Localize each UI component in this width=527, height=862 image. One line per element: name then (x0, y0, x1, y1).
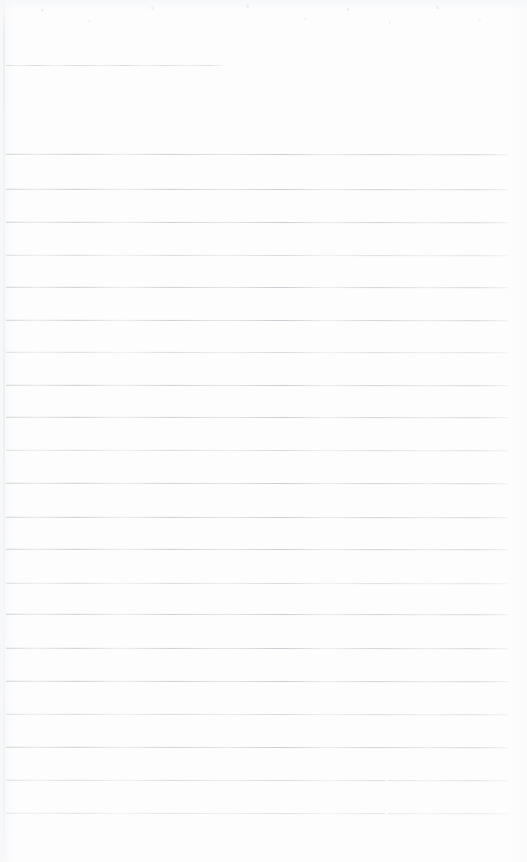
header-rule (6, 65, 223, 66)
scanned-page (0, 0, 527, 862)
rule-ink (6, 417, 508, 418)
rule-scan-step-artifact (385, 812, 388, 814)
rule-ink (6, 780, 508, 781)
rule-ink (6, 154, 508, 155)
rule-ink (6, 222, 508, 223)
body-rule-5 (6, 287, 508, 288)
rule-ink (6, 549, 508, 550)
rule-ink (6, 583, 508, 584)
body-rule-20 (6, 780, 508, 781)
body-rule-10 (6, 450, 508, 451)
body-rule-12 (6, 517, 508, 518)
body-rule-16 (6, 648, 508, 649)
rule-ink (6, 813, 508, 814)
rule-ink (6, 385, 508, 386)
body-rule-2 (6, 189, 508, 190)
body-rule-11 (6, 483, 508, 484)
body-rule-7 (6, 352, 508, 353)
rule-ink (6, 681, 508, 682)
body-rule-4 (6, 255, 508, 256)
rule-ink (6, 517, 508, 518)
rule-ink (6, 320, 508, 321)
body-rule-15 (6, 614, 508, 615)
rule-ink (6, 287, 508, 288)
rule-ink (6, 255, 508, 256)
rule-ink (6, 714, 508, 715)
rule-ink (6, 189, 508, 190)
rule-ink (6, 747, 508, 748)
scan-speckle-noise (0, 0, 527, 34)
rule-ink (6, 352, 508, 353)
rule-ink (6, 483, 508, 484)
body-rule-19 (6, 747, 508, 748)
body-rule-3 (6, 222, 508, 223)
body-rule-1 (6, 154, 508, 155)
scan-edge-streak (3, 0, 5, 862)
paper-tone-overlay (0, 0, 527, 862)
body-rule-17 (6, 681, 508, 682)
rule-ink (6, 614, 508, 615)
body-rule-13 (6, 549, 508, 550)
rule-ink (6, 65, 223, 66)
body-rule-9 (6, 417, 508, 418)
rule-ink (6, 648, 508, 649)
body-rule-21 (6, 813, 508, 814)
rule-scan-step-artifact (385, 779, 388, 781)
body-rule-6 (6, 320, 508, 321)
body-rule-18 (6, 714, 508, 715)
rule-ink (6, 450, 508, 451)
body-rule-14 (6, 583, 508, 584)
body-rule-8 (6, 385, 508, 386)
